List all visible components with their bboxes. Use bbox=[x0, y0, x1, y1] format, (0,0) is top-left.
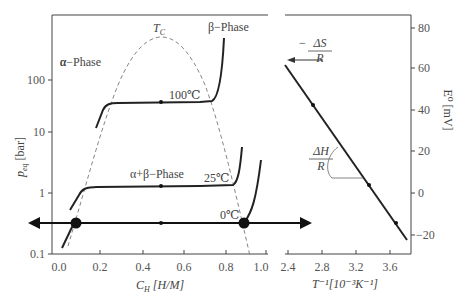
right-ytick-40: 40 bbox=[418, 103, 430, 117]
critical-temp-label: TC bbox=[153, 21, 166, 37]
alpha-beta-phase-label: α+β−Phase bbox=[130, 167, 184, 181]
left-x-axis-label: CH [H/M] bbox=[136, 278, 184, 294]
svg-text:peq [bar]: peq [bar] bbox=[13, 137, 29, 178]
right-x-ticks bbox=[288, 250, 390, 254]
right-xtick-3.2: 3.2 bbox=[349, 260, 364, 274]
beta-phase-label: β−Phase bbox=[208, 20, 249, 34]
svg-text:R: R bbox=[316, 159, 325, 173]
isotherm-0c-label: 0℃ bbox=[220, 208, 239, 222]
chart-canvas: 100 10 1 0.1 0.0 0.2 0.4 0.6 0.8 1.0 peq… bbox=[0, 0, 461, 299]
right-x-axis-label: T⁻¹[10⁻³K⁻¹] bbox=[312, 277, 378, 291]
marker-25c-mid bbox=[159, 184, 163, 188]
marker-100c-mid bbox=[159, 100, 163, 104]
isotherm-25c-label: 25℃ bbox=[204, 171, 229, 185]
svg-text:ΔH: ΔH bbox=[312, 144, 330, 158]
svg-text:E⁰ [mV]: E⁰ [mV] bbox=[441, 89, 455, 130]
enthalpy-annotation: ΔH R bbox=[309, 144, 363, 178]
svg-text:R: R bbox=[315, 51, 324, 65]
arrow-left-head-icon bbox=[28, 217, 40, 229]
svg-text:−: − bbox=[299, 36, 306, 50]
right-ytick-80: 80 bbox=[418, 21, 430, 35]
left-xtick-0.0: 0.0 bbox=[52, 260, 67, 274]
left-ytick-1: 1 bbox=[39, 186, 45, 200]
marker-large-left bbox=[71, 218, 82, 229]
isotherm-100c-label: 100℃ bbox=[169, 88, 200, 102]
vant-hoff-point-2 bbox=[367, 183, 371, 187]
left-y-ticks bbox=[48, 80, 52, 254]
left-xtick-0.6: 0.6 bbox=[177, 260, 192, 274]
vant-hoff-line bbox=[285, 65, 407, 240]
right-xtick-3.6: 3.6 bbox=[383, 260, 398, 274]
right-ytick-0: 0 bbox=[418, 186, 424, 200]
left-ytick-100: 100 bbox=[27, 73, 45, 87]
svg-text:ΔS: ΔS bbox=[312, 36, 326, 50]
isotherm-0c-left bbox=[62, 225, 73, 248]
entropy-annotation: − ΔS R bbox=[287, 36, 332, 65]
left-xtick-0.8: 0.8 bbox=[219, 260, 234, 274]
right-ytick-neg20: −20 bbox=[416, 228, 435, 242]
alpha-phase-label-text: α−Phase bbox=[60, 55, 101, 69]
left-ytick-10: 10 bbox=[33, 125, 45, 139]
left-y-axis-label: peq [bar] bbox=[13, 137, 29, 178]
entropy-arrow-head-icon bbox=[287, 57, 295, 63]
right-ytick-60: 60 bbox=[418, 61, 430, 75]
right-y-axis-label: E⁰ [mV] bbox=[441, 89, 455, 130]
left-x-ticks bbox=[100, 250, 266, 254]
vant-hoff-point-3 bbox=[394, 221, 398, 225]
right-xtick-2.8: 2.8 bbox=[315, 260, 330, 274]
right-y-ticks bbox=[411, 28, 415, 235]
marker-0c-mid bbox=[159, 221, 163, 225]
arrow-right-head-icon bbox=[300, 217, 312, 229]
isotherm-100c bbox=[96, 38, 224, 128]
right-ytick-20: 20 bbox=[418, 144, 430, 158]
left-xtick-1.0: 1.0 bbox=[254, 260, 269, 274]
isotherm-0c-right bbox=[244, 160, 261, 223]
left-ytick-0.1: 0.1 bbox=[30, 247, 45, 261]
left-xtick-0.4: 0.4 bbox=[136, 260, 151, 274]
right-xtick-2.4: 2.4 bbox=[281, 260, 296, 274]
marker-large-right bbox=[239, 218, 250, 229]
vant-hoff-point-1 bbox=[311, 103, 315, 107]
left-xtick-0.2: 0.2 bbox=[93, 260, 108, 274]
